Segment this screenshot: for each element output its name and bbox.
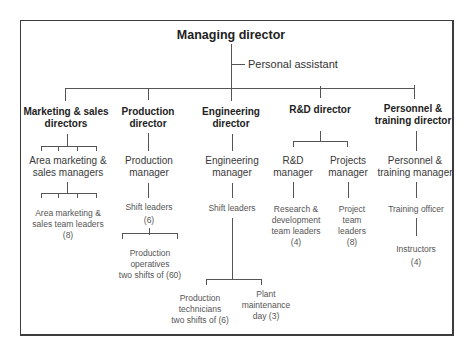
fan-bar	[293, 141, 347, 142]
connector	[148, 183, 149, 198]
fan-bar	[122, 233, 177, 234]
drop-line	[148, 88, 149, 100]
connector	[232, 218, 233, 280]
trunk-line	[231, 44, 232, 101]
connector	[293, 141, 294, 147]
connector	[206, 279, 207, 285]
connector	[122, 233, 123, 239]
production-operatives-node: Productionoperativestwo shifts of (60)	[119, 248, 181, 281]
production-technicians-node: Productiontechnicianstwo shifts of (6)	[171, 293, 229, 326]
assistant-connector	[231, 64, 245, 65]
connector	[347, 141, 348, 147]
connector	[77, 146, 78, 151]
plant-maintenance-node: Plantmaintenanceday (3)	[242, 289, 291, 322]
connector	[261, 279, 262, 285]
connector	[348, 182, 349, 198]
drop-line	[414, 85, 415, 99]
connector	[293, 182, 294, 198]
personnel-manager-node: Personnel &training manager	[377, 155, 452, 179]
drop-line	[65, 88, 66, 101]
connector	[148, 133, 149, 151]
projects-manager-node: Projectsmanager	[328, 155, 367, 179]
connector	[232, 134, 233, 151]
marketing-leaders-node: Area marketing &sales team leaders(8)	[32, 208, 103, 241]
rd-manager-node: R&Dmanager	[273, 155, 312, 179]
connector	[77, 193, 78, 198]
connector	[58, 146, 59, 151]
engineering-shift-leaders-node: Shift leaders	[208, 203, 255, 214]
fan-bar	[206, 279, 261, 280]
fan-bar	[41, 146, 96, 147]
personal-assistant-node: Personal assistant	[248, 58, 338, 70]
connector	[96, 146, 97, 151]
shift-leaders-node: Shift leaders(6)	[125, 202, 172, 226]
drop-line	[320, 86, 321, 98]
production-manager-node: Productionmanager	[125, 155, 173, 179]
managing-director-node: Managing director	[177, 29, 285, 41]
project-team-leaders-node: Projectteamleaders(8)	[338, 204, 366, 248]
connector	[416, 182, 417, 198]
production-director-node: Productiondirector	[122, 106, 175, 130]
connector	[96, 193, 97, 198]
rd-director-node: R&D director	[289, 104, 351, 116]
connector	[58, 193, 59, 198]
connector	[41, 146, 42, 151]
engineering-manager-node: Engineeringmanager	[205, 155, 258, 179]
fan-bar	[41, 193, 96, 194]
connector	[67, 182, 68, 193]
connector	[416, 218, 417, 236]
instructors-node: Instructors(4)	[396, 244, 436, 268]
connector	[416, 131, 417, 151]
personnel-director-node: Personnel &training director	[375, 103, 452, 127]
connector	[67, 134, 68, 146]
training-officer-node: Training officer	[388, 204, 444, 215]
engineering-director-node: Engineeringdirector	[202, 106, 260, 130]
marketing-director-node: Marketing & salesdirectors	[23, 106, 108, 130]
rd-team-leaders-node: Research &developmentteam leaders(4)	[271, 204, 320, 248]
directors-bar	[65, 88, 415, 89]
connector	[177, 233, 178, 239]
connector	[232, 183, 233, 198]
marketing-manager-node: Area marketing &sales managers	[29, 155, 106, 179]
connector	[41, 193, 42, 198]
